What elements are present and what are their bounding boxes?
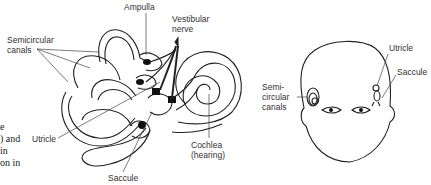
vestibule-drawing [82, 53, 172, 166]
eyes-drawing [322, 107, 370, 113]
vestibular-nerve-drawing [146, 38, 178, 98]
cut-off-text-4: on in [0, 157, 20, 169]
label-semi-3: canals [262, 102, 287, 112]
label-semicircular-1: Semicircular [7, 35, 54, 45]
label-cochlea-2: (hearing) [191, 150, 225, 160]
label-saccule-left: Saccule [108, 173, 138, 183]
left-ear-canals-drawing [307, 88, 319, 106]
cochlea-drawing [170, 52, 241, 133]
label-ampulla: Ampulla [124, 2, 155, 12]
label-utricle-right: Utricle [389, 43, 413, 53]
label-vestibular-nerve-2: nerve [172, 24, 193, 34]
label-semicircular-2: canals [7, 45, 32, 55]
label-cochlea-1: Cochlea [191, 140, 222, 150]
label-semi-2: circular [262, 92, 289, 102]
right-ear-vestibule-drawing [372, 85, 380, 106]
cut-off-text-2: ) and [0, 133, 20, 145]
cut-off-text-1: e [0, 121, 4, 133]
head-outline-drawing [301, 41, 395, 162]
label-vestibular-nerve-1: Vestibular [172, 14, 209, 24]
cut-off-text-3: in [0, 145, 8, 157]
label-saccule-right: Saccule [397, 67, 427, 77]
label-utricle-left: Utricle [32, 134, 56, 144]
label-semi-1: Semi- [262, 82, 284, 92]
